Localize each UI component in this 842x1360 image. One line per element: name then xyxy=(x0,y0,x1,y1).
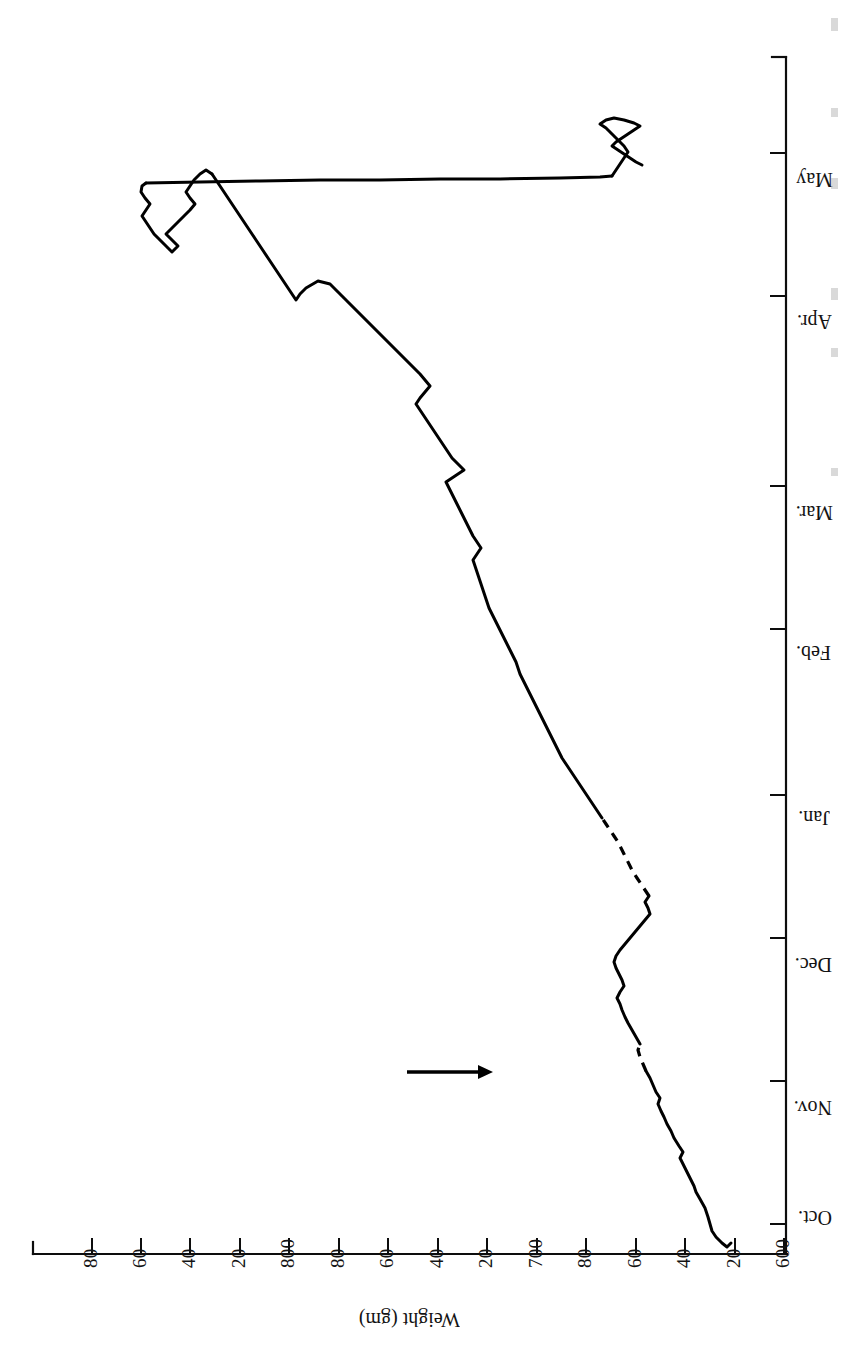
value-tick-label-640: 40 xyxy=(674,1249,693,1268)
time-tick-label-oct: Oct. xyxy=(798,1208,832,1228)
time-tick-label-mar: Mar. xyxy=(796,503,833,523)
value-axis-title: Weight (gm) xyxy=(359,1310,460,1330)
value-tick-label-780: 80 xyxy=(328,1249,347,1268)
chart-canvas xyxy=(0,0,842,1360)
value-tick-label-820: 20 xyxy=(229,1249,248,1268)
value-tick-label-840: 40 xyxy=(179,1249,198,1268)
time-tick-label-feb: Feb. xyxy=(796,643,831,663)
value-tick-label-760: 60 xyxy=(377,1249,396,1268)
weight-line-dashed-2 xyxy=(602,818,649,896)
figure-root: 80 60 40 20 800 80 60 40 20 700 80 60 40… xyxy=(0,0,842,1360)
time-tick-label-jan: Jan. xyxy=(798,808,830,828)
weight-line-segment-2 xyxy=(614,896,650,1044)
time-axis-ticks xyxy=(770,153,786,1224)
time-tick-label-apr: Apr. xyxy=(797,312,832,332)
value-tick-label-700: 700 xyxy=(526,1239,545,1268)
axis-group xyxy=(33,57,787,1254)
event-arrow xyxy=(407,1065,493,1079)
time-tick-label-dec: Dec. xyxy=(795,955,832,975)
value-tick-label-660: 60 xyxy=(625,1249,644,1268)
value-tick-label-620: 20 xyxy=(724,1249,743,1268)
weight-line-segment-3 xyxy=(212,174,602,818)
value-tick-label-860: 60 xyxy=(130,1249,149,1268)
weight-line-segment-6 xyxy=(600,118,642,176)
time-tick-label-may: May xyxy=(796,170,833,190)
value-tick-label-800: 800 xyxy=(278,1239,297,1268)
value-tick-label-740: 40 xyxy=(427,1249,446,1268)
value-tick-label-600: 600 xyxy=(773,1239,792,1268)
time-tick-label-nov: Nov. xyxy=(794,1098,832,1118)
weight-series xyxy=(141,118,731,1247)
weight-line-segment-1 xyxy=(646,1071,731,1247)
value-tick-label-720: 20 xyxy=(476,1249,495,1268)
value-tick-label-680: 80 xyxy=(575,1249,594,1268)
weight-line-dashed-1 xyxy=(638,1044,646,1071)
value-tick-label-880: 80 xyxy=(81,1249,100,1268)
